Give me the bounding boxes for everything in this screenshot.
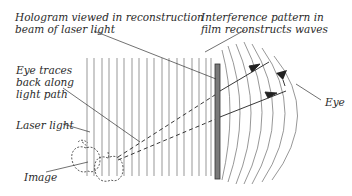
laser-wavefronts [87,58,211,176]
hologram-diagram: Hologram viewed in reconstruction beam o… [0,0,352,196]
reconstructed-wavefronts [222,42,298,184]
eye-traces-label: Eye traces back along light path [16,64,74,100]
hologram-label: Hologram viewed in reconstruction beam o… [15,11,204,35]
interference-label: Interference pattern in film reconstruct… [201,11,328,35]
image-label: Image [24,171,57,183]
eye-icon [276,70,287,86]
virtual-image [72,140,123,181]
eye-label: Eye [325,96,345,108]
traced-rays [118,93,218,160]
laser-light-label: Laser light [16,119,74,131]
hologram-plate [215,64,220,179]
